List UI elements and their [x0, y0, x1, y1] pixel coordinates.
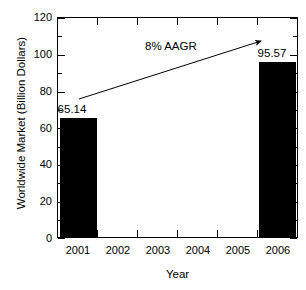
- y-major-tick-0: [58, 238, 65, 239]
- x-tick-top-2002-2003: [137, 18, 138, 25]
- bar-value-label-2001: 65.14: [52, 103, 92, 115]
- x-tick-label-2006: 2006: [256, 245, 300, 256]
- x-tick-2004-2005: [217, 230, 218, 237]
- x-tick-top-2001-2002: [97, 18, 98, 25]
- x-tick-label-2004: 2004: [176, 245, 220, 256]
- x-tick-label-2003: 2003: [136, 245, 180, 256]
- y-minor-tick-90: [58, 73, 62, 74]
- x-tick-top-2003-2004: [177, 18, 178, 25]
- bar-2001[interactable]: [60, 118, 97, 238]
- y-axis-title: Worldwide Market (Billion Dollars): [15, 8, 27, 238]
- x-tick-2003-2004: [177, 230, 178, 237]
- y-major-tick-right-120: [290, 18, 297, 19]
- y-major-tick-80: [58, 92, 65, 93]
- x-tick-2005-2006: [257, 230, 258, 237]
- aagr-annotation-label: 8% AAGR: [145, 40, 197, 52]
- bar-value-label-2006: 95.57: [252, 47, 292, 59]
- x-tick-top-2004-2005: [217, 18, 218, 25]
- x-tick-2002-2003: [137, 230, 138, 237]
- y-major-tick-120: [58, 18, 65, 19]
- x-tick-label-2002: 2002: [96, 245, 140, 256]
- x-tick-label-2001: 2001: [56, 245, 100, 256]
- y-major-tick-100: [58, 55, 65, 56]
- x-tick-top-2005-2006: [257, 18, 258, 25]
- x-tick-2001-2002: [97, 230, 98, 237]
- x-tick-label-2005: 2005: [216, 245, 260, 256]
- bar-2006[interactable]: [259, 62, 296, 238]
- bar-chart-figure: 120 100 80 60 40 20 0 2001 2002 2003 200…: [0, 0, 306, 290]
- y-major-tick-right-0: [290, 238, 297, 239]
- y-minor-tick-110: [58, 36, 62, 37]
- y-minor-tick-right-110: [293, 36, 297, 37]
- x-axis-title: Year: [57, 268, 298, 280]
